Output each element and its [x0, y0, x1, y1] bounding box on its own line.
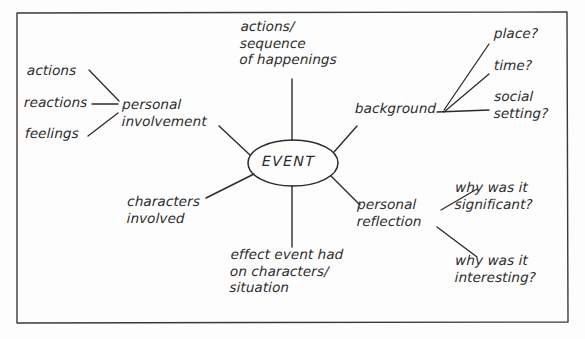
- node-label-reactions: reactions: [24, 94, 88, 111]
- node-label-background: background: [355, 100, 437, 117]
- node-label-personal-involvement: personal involvement: [121, 96, 207, 129]
- center-node-event-label: EVENT: [262, 153, 316, 169]
- mindmap-canvas: EVENT actions reactions feelings persona…: [0, 0, 585, 339]
- connector-feelings-personal-involvement: [88, 113, 118, 136]
- connector-actions-personal-involvement: [89, 70, 119, 101]
- connector-event-personal-involvement: [219, 126, 250, 155]
- node-label-characters-involved: characters involved: [126, 193, 200, 226]
- connector-event-background: [334, 126, 357, 152]
- node-label-actions-sequence: actions/ sequence of happenings: [239, 18, 338, 68]
- node-label-social-setting: social setting?: [493, 88, 549, 121]
- connector-background-time: [444, 74, 489, 112]
- node-label-actions: actions: [27, 62, 77, 79]
- node-label-why-interesting: why was it interesting?: [454, 252, 536, 285]
- node-label-place: place?: [494, 25, 539, 42]
- node-label-personal-reflection: personal reflection: [356, 196, 422, 229]
- connector-event-personal-reflection: [331, 176, 360, 205]
- node-label-feelings: feelings: [25, 125, 79, 142]
- node-label-effect-event: effect event had on characters/ situatio…: [229, 246, 344, 296]
- connector-background-place: [444, 44, 489, 110]
- node-label-why-significant: why was it significant?: [454, 179, 533, 212]
- connector-event-characters-involved: [206, 174, 254, 198]
- node-label-time: time?: [494, 57, 533, 74]
